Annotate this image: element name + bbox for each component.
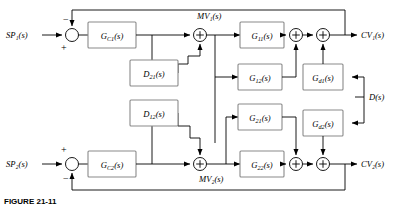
label-cv2: CV₂(s) bbox=[361, 159, 384, 169]
label-mv2: MV₂(s) bbox=[198, 174, 224, 184]
sum-junction-sp1 bbox=[66, 29, 79, 42]
sign-sp2-minus: − bbox=[63, 173, 69, 184]
wire-dist-to-gd1 bbox=[352, 77, 364, 87]
label-disturbance: D(s) bbox=[368, 92, 384, 102]
sum-junction-sp2 bbox=[66, 158, 79, 171]
sign-sp1-minus: − bbox=[63, 14, 69, 25]
sign-sp2-plus: + bbox=[61, 144, 67, 155]
label-mv1: MV₁(s) bbox=[196, 11, 222, 21]
figure-caption: FIGURE 21-11 bbox=[4, 197, 57, 206]
wire-g12-to-sum-cv1a bbox=[282, 44, 296, 77]
label-sp2: SP₂(s) bbox=[6, 159, 28, 169]
sign-sp1-plus: + bbox=[61, 42, 67, 53]
wire-dist-to-gd2 bbox=[352, 120, 364, 123]
wire-mv1-bus bbox=[207, 35, 241, 143]
wire-d12-to-mv2 bbox=[178, 113, 200, 155]
wire-mv2-bus bbox=[207, 117, 241, 164]
wire-g21-to-sum-cv2a bbox=[282, 117, 296, 155]
control-block-diagram: SP₁(s) SP₂(s) − + + − MV₁(s) MV₂(s) CV₁(… bbox=[0, 0, 398, 206]
label-sp1: SP₁(s) bbox=[6, 30, 28, 40]
wire-d21-to-mv1 bbox=[178, 44, 200, 73]
label-cv1: CV₁(s) bbox=[361, 30, 384, 40]
